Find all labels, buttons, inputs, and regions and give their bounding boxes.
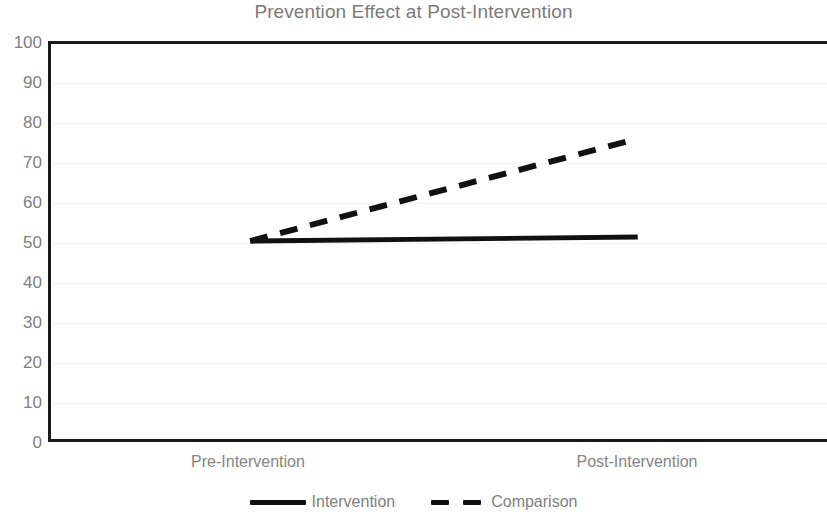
legend-label-intervention: Intervention bbox=[312, 492, 396, 512]
y-tick-label: 50 bbox=[0, 234, 42, 251]
y-axis-tick-labels: 100 90 80 70 60 50 40 30 20 10 0 bbox=[0, 0, 42, 516]
legend-item-intervention[interactable]: Intervention bbox=[250, 492, 396, 512]
series-line-comparison bbox=[250, 139, 638, 241]
x-axis-tick-labels: Pre-Intervention Post-Intervention bbox=[0, 452, 827, 476]
plot-area bbox=[48, 41, 827, 442]
dashed-line-icon bbox=[429, 497, 485, 507]
chart-container: Prevention Effect at Post-Intervention 1… bbox=[0, 0, 827, 516]
series-line-intervention bbox=[250, 237, 638, 241]
x-tick-label-pre: Pre-Intervention bbox=[191, 452, 305, 472]
y-tick-label: 40 bbox=[0, 274, 42, 291]
y-tick-label: 80 bbox=[0, 114, 42, 131]
legend-item-comparison[interactable]: Comparison bbox=[429, 492, 577, 512]
solid-line-icon bbox=[250, 497, 306, 507]
y-tick-label: 20 bbox=[0, 354, 42, 371]
x-tick-label-post: Post-Intervention bbox=[577, 452, 698, 472]
y-tick-label: 90 bbox=[0, 74, 42, 91]
chart-title: Prevention Effect at Post-Intervention bbox=[0, 1, 827, 23]
y-tick-label: 70 bbox=[0, 154, 42, 171]
data-series-svg bbox=[51, 44, 827, 439]
y-tick-label: 30 bbox=[0, 314, 42, 331]
y-tick-label: 60 bbox=[0, 194, 42, 211]
chart-legend: Intervention Comparison bbox=[0, 489, 827, 515]
legend-label-comparison: Comparison bbox=[491, 492, 577, 512]
y-tick-label: 10 bbox=[0, 394, 42, 411]
y-tick-label: 100 bbox=[0, 34, 42, 51]
y-tick-label: 0 bbox=[0, 434, 42, 451]
